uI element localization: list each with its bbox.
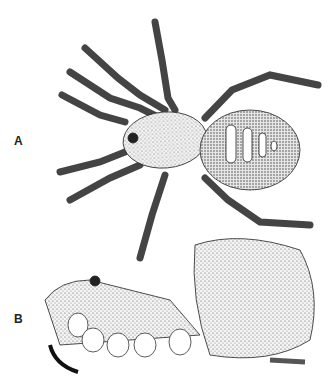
spider-dorsal-view bbox=[60, 22, 318, 258]
spider-lateral-view bbox=[45, 239, 314, 372]
spider-illustration bbox=[0, 0, 334, 388]
